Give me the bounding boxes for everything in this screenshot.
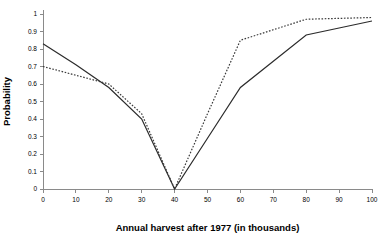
y-tick-label: 0.2 [28,150,37,157]
x-tick-label: 10 [72,196,80,203]
y-tick-label: 0.1 [28,168,37,175]
y-tick-label: 0.6 [28,80,37,87]
y-tick-label: 0.3 [28,133,37,140]
x-tick-label: 100 [367,196,378,203]
data-series [43,18,372,190]
y-tick-label: 0.7 [28,63,37,70]
x-tick-label: 70 [270,196,278,203]
x-tick-label: 80 [303,196,311,203]
x-tick-label: 40 [171,196,179,203]
x-axis-title: Annual harvest after 1977 (in thousands) [116,222,300,233]
x-tick-label: 0 [41,196,45,203]
x-tick-label: 50 [204,196,212,203]
chart-plot-area: 00.10.20.30.40.50.60.70.80.91 0102030405… [0,0,380,238]
x-axis-ticks: 0102030405060708090100 [41,189,378,203]
series-dotted-line [43,18,372,190]
x-tick-label: 60 [237,196,245,203]
y-tick-label: 0.9 [28,28,37,35]
x-tick-label: 90 [335,196,343,203]
y-tick-label: 0.5 [28,98,37,105]
y-tick-label: 0.8 [28,45,37,52]
chart-container: 00.10.20.30.40.50.60.70.80.91 0102030405… [0,0,380,238]
series-solid-line [43,21,372,189]
axes [43,10,372,189]
y-tick-label: 0 [33,185,37,192]
y-axis-ticks: 00.10.20.30.40.50.60.70.80.91 [28,10,43,192]
y-tick-label: 0.4 [28,115,37,122]
y-axis-title: Probability [1,76,12,126]
y-tick-label: 1 [33,10,37,17]
x-tick-label: 30 [138,196,146,203]
x-tick-label: 20 [105,196,113,203]
